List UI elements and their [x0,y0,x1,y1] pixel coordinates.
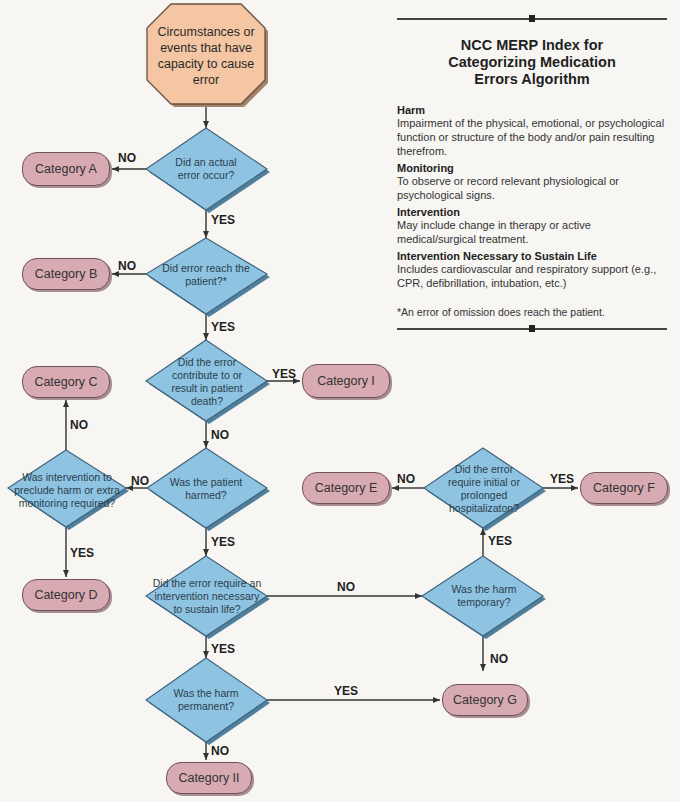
definition-text: To observe or record relevant physiologi… [397,174,667,202]
edge-label-yes: YES [211,213,235,227]
legend-title: NCC MERP Index for Categorizing Medicati… [397,37,667,88]
edge-label-no: NO [211,428,229,442]
category-h: Category II [166,762,252,794]
category-f: Category F [580,472,668,504]
edge-label-yes: YES [550,472,574,486]
edge-label-no: NO [397,472,415,486]
category-c: Category C [22,366,110,398]
definition-term: Harm [397,104,667,116]
divider-top [397,14,667,22]
decision-contribute-death-text: Did the error contribute to or result in… [163,354,251,410]
category-e: Category E [302,472,390,504]
decision-intervention-preclude-text: Was intervention to preclude harm or ext… [8,458,126,522]
edge-label-no: NO [337,580,355,594]
category-g: Category G [442,684,528,716]
edge-label-no: NO [131,474,149,488]
divider-bottom [397,324,667,332]
edge-label-no: NO [118,259,136,273]
category-a: Category A [22,152,110,186]
edge-label-yes: YES [334,684,358,698]
definition-term: Intervention Necessary to Sustain Life [397,250,667,262]
definition-text: Includes cardiovascular and respiratory … [397,262,667,290]
decision-sustain-life-text: Did the error require an intervention ne… [152,568,262,624]
edge-label-yes: YES [211,320,235,334]
category-d: Category D [22,579,110,611]
edge-label-yes: YES [211,642,235,656]
edge-label-no: NO [490,652,508,666]
decision-actual-error-text: Did an actual error occur? [166,150,246,188]
edge-label-no: NO [118,151,136,165]
footnote: *An error of omission does reach the pat… [397,306,667,318]
definition-text: May include change in therapy or active … [397,218,667,246]
definition-term: Intervention [397,206,667,218]
definition-text: Impairment of the physical, emotional, o… [397,116,667,158]
edge-label-no: NO [70,418,88,432]
edge-label-yes: YES [70,546,94,560]
edge-label-yes: YES [211,535,235,549]
edge-label-no: NO [211,744,229,758]
decision-reach-patient-text: Did error reach the patient?* [161,256,251,294]
edge-label-yes: YES [272,367,296,381]
definition-term: Monitoring [397,162,667,174]
decision-hospitalization-text: Did the error require initial or prolong… [438,460,530,518]
start-node-text: Circumstances or events that have capaci… [144,12,268,100]
decision-harm-permanent-text: Was the harm permanent? [168,682,244,718]
category-b: Category B [22,258,110,290]
category-i: Category I [302,364,390,398]
legend-panel: NCC MERP Index for Categorizing Medicati… [397,14,667,332]
edge-label-yes: YES [488,534,512,548]
decision-harm-temporary-text: Was the harm temporary? [448,578,520,614]
decision-patient-harmed-text: Was the patient harmed? [166,470,246,508]
